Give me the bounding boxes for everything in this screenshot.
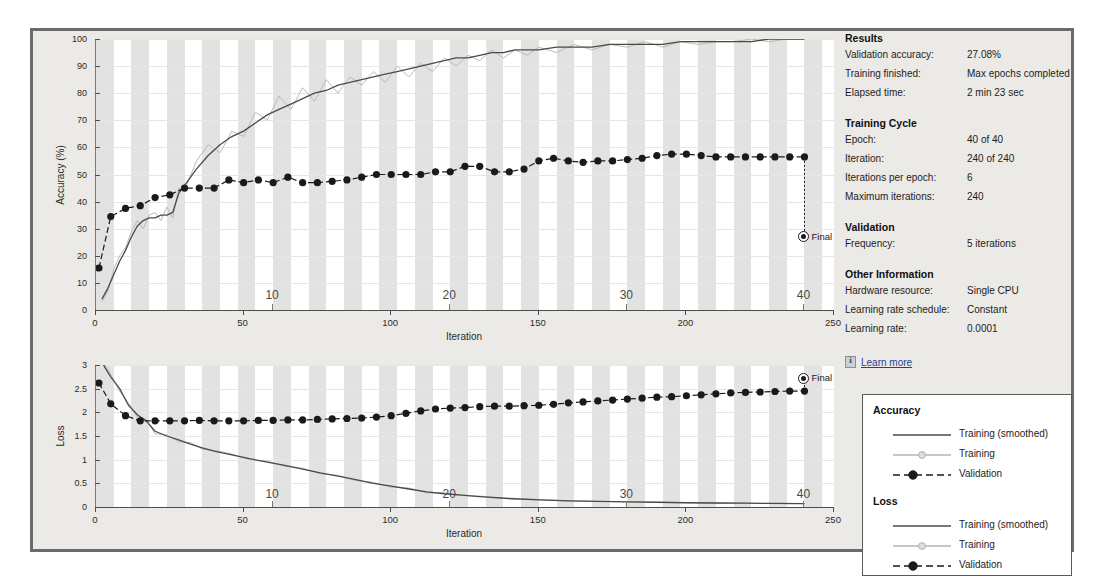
validation-heading: Validation (845, 221, 1067, 233)
loss-x-axis-label: Iteration (446, 528, 482, 539)
epoch-tick-mark (626, 304, 627, 310)
epoch-label: 10 (265, 288, 278, 302)
loss-y-axis-label: Loss (55, 425, 66, 446)
info-row-key: Epoch: (845, 134, 876, 145)
y-tick-label: 0.5 (74, 478, 87, 488)
other-information-rows: Hardware resource:Single CPULearning rat… (845, 285, 1067, 342)
loss-chart: 00.511.522.53 05010015020025010203040 Lo… (33, 361, 835, 549)
info-row-value: 240 (967, 191, 984, 202)
y-tick-label: 50 (77, 170, 87, 180)
info-row: Frequency:5 iterations (845, 238, 1067, 257)
info-row-key: Maximum iterations: (845, 191, 934, 202)
info-row-value: 27.08% (967, 49, 1001, 60)
info-row: Iteration:240 of 240 (845, 153, 1067, 172)
accuracy-plot-area (95, 39, 834, 311)
legend-entry[interactable]: Training (873, 534, 1061, 554)
x-tick-mark (390, 507, 391, 512)
legend-entry[interactable]: Validation (873, 463, 1061, 483)
accuracy-x-axis-label: Iteration (446, 331, 482, 342)
legend-entry[interactable]: Training (873, 443, 1061, 463)
y-tick-mark (95, 93, 100, 94)
epoch-label: 20 (443, 487, 456, 501)
y-tick-label: 3 (82, 360, 87, 370)
info-row-key: Iterations per epoch: (845, 172, 936, 183)
legend-sample-dashed-dark-marker (891, 467, 953, 479)
learn-more-link[interactable]: Learn more (845, 354, 1067, 370)
charts-column: 0102030405060708090100 05010015020025010… (33, 31, 835, 549)
x-tick-label: 0 (92, 317, 97, 328)
x-tick-mark (685, 310, 686, 315)
training-cycle-heading: Training Cycle (845, 117, 1067, 129)
legend-sample-solid-light-marker (891, 538, 953, 550)
y-tick-label: 90 (77, 61, 87, 71)
info-row: Learning rate schedule:Constant (845, 304, 1067, 323)
x-tick-label: 0 (92, 514, 97, 525)
y-tick-mark (95, 389, 100, 390)
epoch-label: 40 (797, 288, 810, 302)
legend-box: AccuracyTraining (smoothed)TrainingValid… (862, 394, 1072, 576)
epoch-tick-mark (626, 501, 627, 507)
info-row-key: Elapsed time: (845, 87, 906, 98)
y-tick-label: 70 (77, 115, 87, 125)
info-row-value: 240 of 240 (967, 153, 1014, 164)
info-row-key: Hardware resource: (845, 285, 933, 296)
x-tick-mark (833, 310, 834, 315)
final-dot-icon (798, 231, 809, 242)
info-row-key: Frequency: (845, 238, 895, 249)
legend-entry[interactable]: Validation (873, 554, 1061, 574)
epoch-tick-mark (272, 304, 273, 310)
y-tick-mark (95, 283, 100, 284)
loss-final-label: Final (811, 372, 832, 383)
loss-plot-area (95, 365, 834, 508)
info-row-key: Training finished: (845, 68, 921, 79)
legend-entry-label: Training (smoothed) (959, 519, 1048, 530)
info-row-value: 40 of 40 (967, 134, 1003, 145)
y-tick-label: 10 (77, 278, 87, 288)
info-row-value: Single CPU (967, 285, 1019, 296)
epoch-label: 30 (620, 487, 633, 501)
accuracy-series-svg (96, 39, 834, 310)
info-row: Elapsed time:2 min 23 sec (845, 87, 1067, 106)
y-tick-label: 1.5 (74, 431, 87, 441)
x-tick-label: 250 (825, 317, 841, 328)
accuracy-chart: 0102030405060708090100 05010015020025010… (33, 31, 835, 349)
x-tick-mark (538, 310, 539, 315)
legend-sample-solid-dark (891, 518, 953, 530)
x-tick-label: 100 (382, 317, 398, 328)
accuracy-plot-wrap: 0102030405060708090100 05010015020025010… (33, 31, 835, 349)
info-row: Hardware resource:Single CPU (845, 285, 1067, 304)
training-cycle-rows: Epoch:40 of 40Iteration:240 of 240Iterat… (845, 134, 1067, 210)
x-tick-label: 150 (530, 317, 546, 328)
y-tick-label: 30 (77, 224, 87, 234)
x-tick-mark (538, 507, 539, 512)
epoch-tick-mark (803, 304, 804, 310)
loss-plot-wrap: 00.511.522.53 05010015020025010203040 Lo… (33, 361, 835, 549)
y-tick-label: 20 (77, 251, 87, 261)
info-row-key: Validation accuracy: (845, 49, 934, 60)
legend-entry-label: Training (959, 539, 995, 550)
info-row-key: Iteration: (845, 153, 884, 164)
legend-group-title: Loss (873, 495, 1061, 507)
legend-entry-label: Validation (959, 468, 1002, 479)
y-tick-mark (95, 120, 100, 121)
info-row-key: Learning rate schedule: (845, 304, 950, 315)
results-rows: Validation accuracy:27.08%Training finis… (845, 49, 1067, 106)
x-tick-label: 50 (237, 317, 248, 328)
loss-series-svg (96, 365, 834, 507)
legend-entry[interactable]: Training (smoothed) (873, 423, 1061, 443)
y-tick-mark (95, 66, 100, 67)
y-tick-mark (95, 365, 100, 366)
y-tick-mark (95, 483, 100, 484)
epoch-tick-mark (449, 304, 450, 310)
x-tick-mark (833, 507, 834, 512)
epoch-tick-mark (803, 501, 804, 507)
legend-entry[interactable]: Training (smoothed) (873, 514, 1061, 534)
x-tick-label: 100 (382, 514, 398, 525)
legend-group-title: Accuracy (873, 404, 1061, 416)
epoch-label: 40 (797, 487, 810, 501)
y-tick-label: 100 (72, 34, 87, 44)
training-progress-window: 0102030405060708090100 05010015020025010… (0, 0, 1097, 580)
epoch-tick-mark (272, 501, 273, 507)
y-tick-label: 40 (77, 197, 87, 207)
y-tick-label: 2 (82, 407, 87, 417)
